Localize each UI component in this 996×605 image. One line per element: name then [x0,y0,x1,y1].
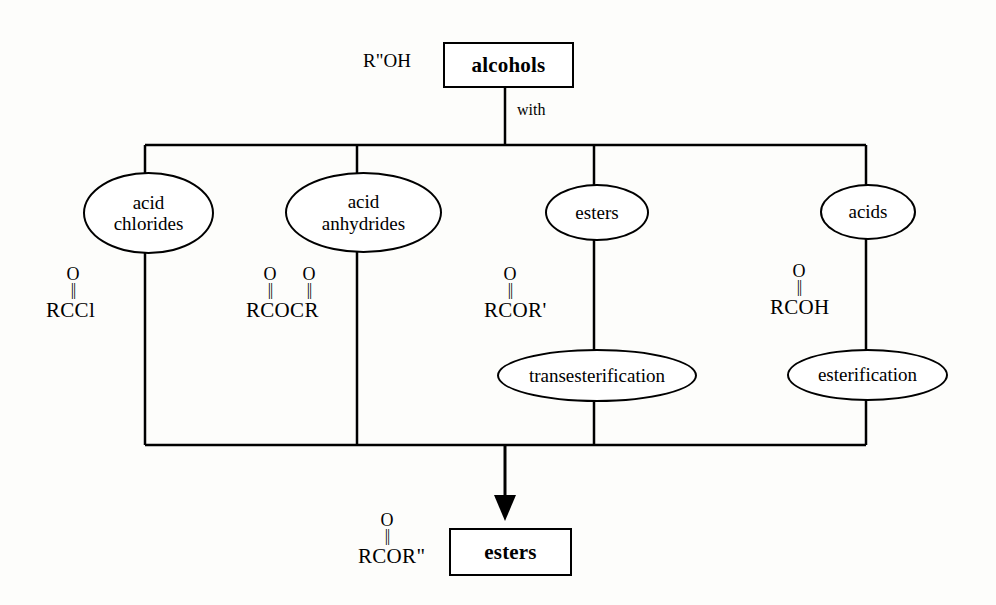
double-bond-icon: || [792,279,806,294]
double-bond-icon: || [302,282,316,297]
formula-base-text: RCOH [770,297,830,318]
formula-product-ester: O || RCOR" [358,512,425,567]
oxygen-atom: O [263,266,277,282]
carbonyl-group-1: O || [503,266,517,297]
carbonyl-group-1: O || [792,263,806,294]
node-acid-chlorides-label: acid chlorides [114,192,184,235]
double-bond-icon: || [503,282,517,297]
node-acids[interactable]: acids [820,184,916,240]
reagent-label-alcohol: R"OH [363,50,411,72]
carbonyl-row: O || [770,263,830,297]
oxygen-atom: O [302,266,316,282]
label-line-2: anhydrides [322,213,405,234]
formula-acid-chloride: O || RCCl [46,266,95,321]
carbonyl-row: O || [358,512,425,546]
node-esterification[interactable]: esterification [787,349,948,401]
label-line-1: acid [348,191,380,212]
edge-label-with: with [517,101,545,119]
carbonyl-group-1: O || [66,266,80,297]
carbonyl-row: O || O || [246,266,319,300]
formula-acid-anhydride: O || O || RCOCR [246,266,319,321]
node-acid-anhydrides-label: acid anhydrides [322,191,405,234]
node-alcohols[interactable]: alcohols [443,42,574,88]
node-esters-product[interactable]: esters [449,528,572,576]
formula-base-text: RCCl [46,300,95,321]
formula-ester: O || RCOR' [484,266,546,321]
formula-base-text: RCOR' [484,300,546,321]
formula-carboxylic-acid: O || RCOH [770,263,830,318]
label-line-1: acid [133,192,165,213]
double-bond-icon: || [66,282,80,297]
double-bond-icon: || [380,528,394,543]
node-acid-chlorides[interactable]: acid chlorides [83,172,214,254]
diagram-canvas: R"OH alcohols with acid chlorides O || R… [0,0,996,605]
node-transesterification-label: transesterification [529,365,665,386]
node-acids-label: acids [848,201,887,222]
carbonyl-row: O || [46,266,95,300]
oxygen-atom: O [503,266,517,282]
carbonyl-group-1: O || [380,512,394,543]
carbonyl-row: O || [484,266,546,300]
carbonyl-group-1: O || [263,266,277,297]
formula-base-text: RCOCR [246,300,319,321]
node-esterification-label: esterification [818,364,917,385]
node-acid-anhydrides[interactable]: acid anhydrides [285,172,442,253]
oxygen-atom: O [792,263,806,279]
label-line-2: chlorides [114,213,184,234]
carbonyl-group-2: O || [302,266,316,297]
node-transesterification[interactable]: transesterification [497,349,697,402]
arrowhead-icon [494,495,516,521]
formula-base-text: RCOR" [358,546,425,567]
oxygen-atom: O [66,266,80,282]
double-bond-icon: || [263,282,277,297]
node-esters-reactant[interactable]: esters [545,184,649,241]
oxygen-atom: O [380,512,394,528]
node-esters-reactant-label: esters [575,202,618,223]
